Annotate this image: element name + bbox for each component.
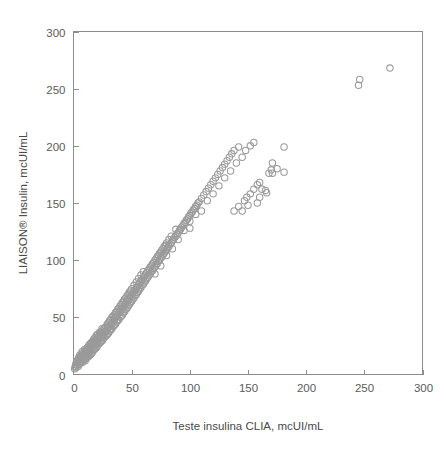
data-point <box>210 191 216 197</box>
x-axis-title: Teste insulina CLIA, mcUI/mL <box>173 420 324 432</box>
data-point <box>227 168 233 174</box>
data-point <box>187 225 193 231</box>
data-point <box>233 160 239 166</box>
x-tick-label: 150 <box>239 382 258 394</box>
y-tick-label: 200 <box>46 141 65 153</box>
data-point <box>204 198 210 204</box>
data-point <box>239 154 245 160</box>
x-tick-label: 100 <box>181 382 200 394</box>
x-tick-label: 0 <box>71 382 77 394</box>
y-tick-label: 300 <box>46 27 65 39</box>
scatter-plot-svg: 050100150200250300 050100150200250300 Te… <box>0 0 446 455</box>
y-tick-label: 150 <box>46 198 65 210</box>
y-tick-label: 250 <box>46 84 65 96</box>
data-point <box>263 190 269 196</box>
data-point <box>245 202 251 208</box>
x-tick-label: 250 <box>355 382 374 394</box>
x-tick-label: 300 <box>414 382 433 394</box>
y-tick-label: 0 <box>59 370 65 382</box>
data-point <box>239 208 245 214</box>
data-point <box>251 186 257 192</box>
data-point <box>222 175 228 181</box>
scatter-chart: 050100150200250300 050100150200250300 Te… <box>0 0 446 455</box>
x-tick-label: 200 <box>297 382 316 394</box>
data-point <box>281 144 287 150</box>
plot-frame <box>74 32 423 375</box>
data-point <box>256 194 262 200</box>
y-tick-label: 100 <box>46 255 65 267</box>
data-point <box>235 144 241 150</box>
data-point <box>235 203 241 209</box>
data-point <box>269 160 275 166</box>
x-axis: 050100150200250300 <box>71 370 433 394</box>
data-point <box>216 183 222 189</box>
data-point <box>198 208 204 214</box>
x-tick-label: 50 <box>126 382 139 394</box>
data-markers <box>71 65 393 372</box>
data-point <box>274 166 280 172</box>
y-axis-title: LIAISON® Insulin, mcUI/mL <box>17 131 29 274</box>
data-point <box>387 65 393 71</box>
data-point <box>281 169 287 175</box>
y-tick-label: 50 <box>53 312 66 324</box>
